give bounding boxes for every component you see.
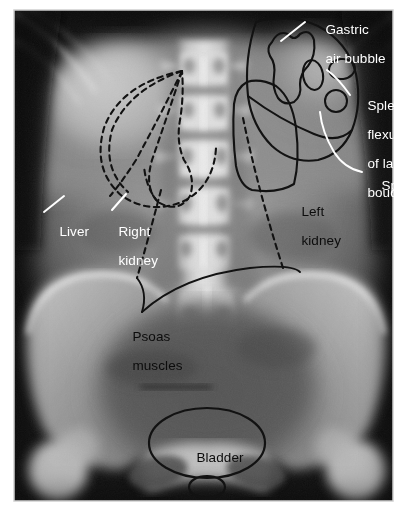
annotated-radiograph-figure: Gastric air bubble Splenic flexure of la… (0, 0, 414, 511)
xray-image (0, 0, 414, 511)
xray-film (14, 10, 393, 501)
